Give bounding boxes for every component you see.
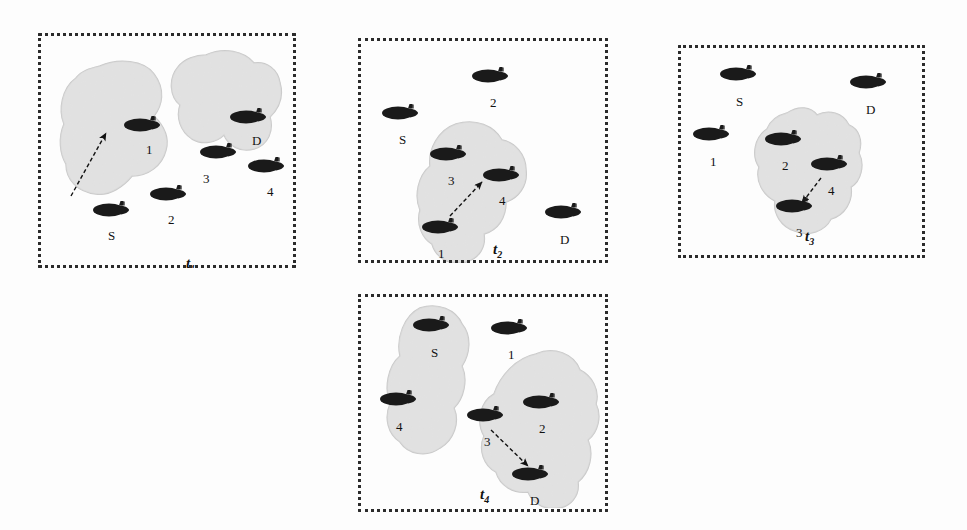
panel-t3: SD1243t3 <box>678 45 925 258</box>
figure-root: 12S3D4t12S341Dt2SD1243t3S1423Dt4 <box>0 0 967 530</box>
panel-border-t3 <box>678 45 925 258</box>
panel-border-t2 <box>358 38 608 263</box>
panel-border-t4 <box>358 294 608 512</box>
panel-t4: S1423Dt4 <box>358 294 608 512</box>
panel-t2: 2S341Dt2 <box>358 38 608 263</box>
panel-border-t1 <box>38 33 296 268</box>
panel-t1: 12S3D4t1 <box>38 33 296 268</box>
